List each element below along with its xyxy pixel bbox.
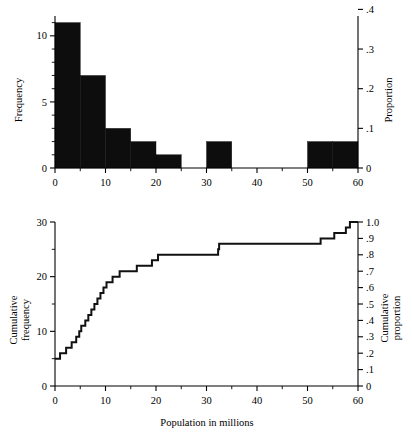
- cumulative-proportion-axis-title-line1: Cumulative: [379, 293, 390, 342]
- tick-label: 0: [366, 163, 371, 174]
- proportion-axis-title: Proportion: [383, 77, 394, 123]
- tick-label: 0: [52, 395, 57, 406]
- tick-label: 10: [100, 177, 111, 188]
- histogram-bar: [333, 142, 358, 168]
- cumulative-step-curve: [55, 222, 358, 359]
- tick-label: 50: [302, 177, 313, 188]
- tick-label: 0: [366, 381, 371, 392]
- tick-label: 40: [252, 395, 263, 406]
- tick-label: 10: [37, 326, 48, 337]
- cumulative-tick-labels: 010203040506001020300.1.2.3.4.5.6.7.8.91…: [37, 217, 380, 406]
- histogram-bar: [156, 155, 181, 168]
- histogram-bars: [55, 23, 358, 168]
- histogram-panel: 010203040506005100.1.2.3.4 Frequency Pro…: [0, 0, 412, 200]
- tick-label: 30: [201, 395, 212, 406]
- cumulative-proportion-axis-title-line2: proportion: [391, 295, 402, 340]
- tick-label: .9: [366, 233, 374, 244]
- tick-label: 30: [201, 177, 212, 188]
- histogram-bar: [131, 142, 156, 168]
- tick-label: 20: [37, 271, 48, 282]
- tick-label: .8: [366, 249, 374, 260]
- tick-label: 20: [151, 395, 162, 406]
- tick-label: .4: [366, 315, 375, 326]
- tick-label: 0: [42, 381, 47, 392]
- statistics-figure: 010203040506005100.1.2.3.4 Frequency Pro…: [0, 0, 412, 440]
- histogram-bar: [80, 75, 105, 168]
- tick-label: .3: [366, 44, 374, 55]
- tick-label: 0: [42, 163, 47, 174]
- tick-label: 60: [353, 395, 364, 406]
- tick-label: .6: [366, 282, 374, 293]
- histogram-bar: [55, 23, 80, 168]
- tick-label: 40: [252, 177, 263, 188]
- tick-label: .2: [366, 83, 374, 94]
- tick-label: 5: [42, 97, 47, 108]
- histogram-bar: [207, 142, 232, 168]
- tick-label: .5: [366, 299, 374, 310]
- tick-label: .3: [366, 331, 374, 342]
- cumulative-panel: 010203040506001020300.1.2.3.4.5.6.7.8.91…: [0, 200, 412, 440]
- tick-label: 0: [52, 177, 57, 188]
- x-axis-title: Population in millions: [160, 417, 253, 428]
- tick-label: 1.0: [366, 217, 379, 228]
- tick-label: 10: [100, 395, 111, 406]
- cumulative-axes: [50, 222, 363, 391]
- frequency-axis-title: Frequency: [13, 77, 24, 122]
- tick-label: .7: [366, 266, 374, 277]
- tick-label: .1: [366, 364, 374, 375]
- tick-label: .4: [366, 4, 375, 15]
- histogram-bar: [308, 142, 333, 168]
- cumulative-frequency-axis-title-line2: frequency: [20, 298, 31, 341]
- tick-label: 50: [302, 395, 313, 406]
- cumulative-frequency-axis-title-line1: Cumulative: [8, 295, 19, 344]
- tick-label: .1: [366, 123, 374, 134]
- histogram-bar: [106, 128, 131, 168]
- tick-label: .2: [366, 348, 374, 359]
- tick-label: 20: [151, 177, 162, 188]
- tick-label: 60: [353, 177, 364, 188]
- tick-label: 10: [37, 30, 48, 41]
- tick-label: 30: [37, 217, 48, 228]
